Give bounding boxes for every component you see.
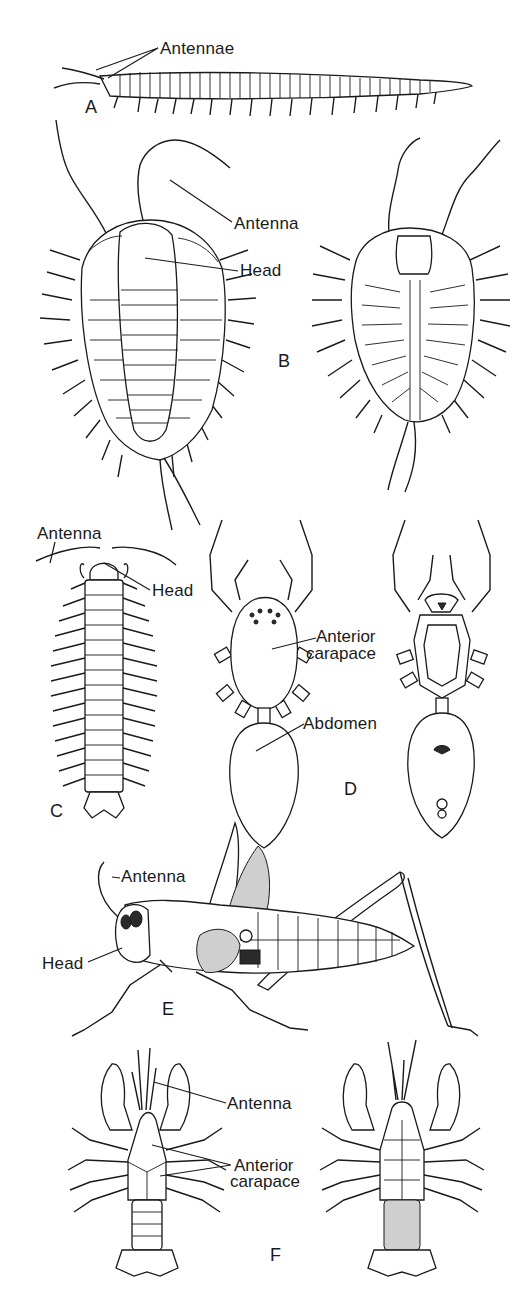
label-head-b: Head <box>240 262 281 279</box>
panel-letter-e: E <box>162 1000 174 1018</box>
label-anterior-carapace-d-line1: Anterior <box>316 629 376 645</box>
panel-d-ventral-organism <box>393 520 490 838</box>
panel-e-organism <box>72 823 478 1036</box>
panel-letter-d: D <box>344 780 357 798</box>
panel-letter-c: C <box>50 802 63 820</box>
panel-a-organism <box>54 68 472 116</box>
panel-f-dorsal-organism <box>68 1048 226 1276</box>
label-head-c: Head <box>152 582 193 599</box>
label-head-e: Head <box>42 955 83 972</box>
panel-letter-b: B <box>278 352 290 370</box>
panel-b-dorsal-organism <box>40 120 256 530</box>
arthropod-diagram: Antennae A Antenna Head B Antenna Head C… <box>0 0 531 1294</box>
label-abdomen: Abdomen <box>303 715 377 732</box>
panel-letter-f: F <box>270 1246 281 1264</box>
label-anterior-carapace-d-line2: carapace <box>306 646 376 662</box>
label-antenna-f: Antenna <box>227 1095 292 1112</box>
panel-f-ventral-organism <box>320 1040 484 1276</box>
panel-letter-a: A <box>85 98 97 116</box>
panel-d-dorsal-organism <box>210 520 312 848</box>
label-antenna-b: Antenna <box>234 215 299 232</box>
label-antennae: Antennae <box>160 40 234 57</box>
label-antenna-e: Antenna <box>121 868 186 885</box>
label-antenna-c: Antenna <box>37 525 102 542</box>
panel-b-ventral-organism <box>312 138 510 492</box>
label-anterior-carapace-f-line2: carapace <box>230 1174 300 1190</box>
